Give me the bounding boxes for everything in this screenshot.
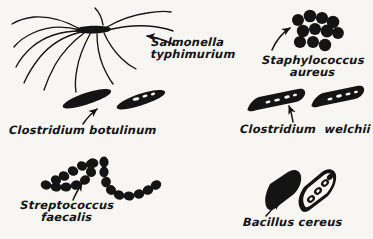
- label-salmonella-line2: typhimurium: [150, 47, 235, 61]
- label-clostridium-welchii: Clostridium welchii: [240, 123, 371, 135]
- label-streptococcus-faecalis: Streptococcusfaecalis: [5, 199, 128, 223]
- label-cereus-line1: Bacillus cereus: [243, 215, 343, 229]
- label-bacillus-cereus: Bacillus cereus: [243, 216, 343, 228]
- label-welchii-line1: Clostridium welchii: [240, 122, 371, 136]
- label-strep-line2: faecalis: [41, 210, 93, 224]
- bacteria-figure: Salmonellatyphimurium Staphylococcusaure…: [0, 0, 373, 239]
- label-botulinum-line1: Clostridium botulinum: [9, 123, 157, 137]
- label-staphylococcus-aureus: Staphylococcusaureus: [258, 54, 367, 78]
- label-salmonella-typhimurium: Salmonellatyphimurium: [150, 36, 236, 60]
- label-clostridium-botulinum: Clostridium botulinum: [9, 124, 157, 136]
- label-staph-line2: aureus: [290, 65, 336, 79]
